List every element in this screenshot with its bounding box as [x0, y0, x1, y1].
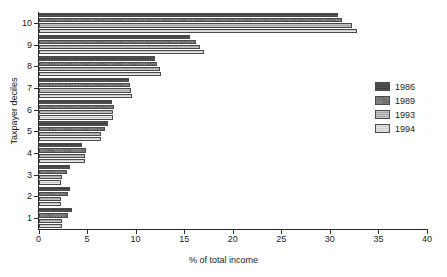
legend-swatch-1994 — [375, 124, 390, 133]
bar-1986-decile-1 — [39, 208, 72, 212]
bar-1993-decile-1 — [39, 219, 62, 223]
legend-item-1994: 1994 — [375, 122, 445, 135]
bar-1994-decile-9 — [39, 50, 204, 54]
x-tick-label: 0 — [36, 234, 41, 244]
bar-1986-decile-8 — [39, 56, 156, 60]
bar-1989-decile-10 — [39, 18, 342, 22]
bar-1994-decile-3 — [39, 180, 61, 184]
bar-1994-decile-5 — [39, 137, 101, 141]
bar-1989-decile-5 — [39, 127, 105, 131]
bar-1986-decile-6 — [39, 100, 113, 104]
bar-1994-decile-4 — [39, 159, 86, 163]
y-tick-label: 9 — [27, 40, 32, 50]
y-tick — [34, 110, 38, 111]
bar-1989-decile-7 — [39, 83, 130, 87]
x-tick-label: 25 — [276, 234, 286, 244]
bar-1989-decile-6 — [39, 105, 115, 109]
bar-1989-decile-1 — [39, 213, 68, 217]
y-tick-label: 10 — [22, 18, 32, 28]
y-tick-label: 5 — [27, 126, 32, 136]
x-tick-label: 15 — [179, 234, 189, 244]
bar-1994-decile-8 — [39, 72, 161, 76]
bar-1994-decile-2 — [39, 202, 61, 206]
y-tick — [34, 66, 38, 67]
bar-1994-decile-7 — [39, 94, 132, 98]
bar-1993-decile-2 — [39, 197, 61, 201]
legend-label-1994: 1994 — [395, 124, 415, 134]
legend-item-1993: 1993 — [375, 108, 445, 121]
bar-1986-decile-7 — [39, 78, 129, 82]
x-tick-label: 10 — [131, 234, 141, 244]
y-tick-label: 6 — [27, 105, 32, 115]
x-tick-label: 30 — [325, 234, 335, 244]
y-axis-title: Taxpayer deciles — [9, 51, 19, 171]
y-tick — [34, 23, 38, 24]
y-tick — [34, 153, 38, 154]
x-tick-label: 20 — [228, 234, 238, 244]
legend-label-1986: 1986 — [395, 82, 415, 92]
bar-1993-decile-3 — [39, 175, 62, 179]
y-tick-label: 4 — [27, 148, 32, 158]
legend-item-1986: 1986 — [375, 80, 445, 93]
y-tick — [34, 175, 38, 176]
bar-1989-decile-8 — [39, 62, 157, 66]
x-tick-label: 40 — [422, 234, 432, 244]
y-tick-label: 8 — [27, 61, 32, 71]
bar-1986-decile-10 — [39, 13, 338, 17]
bar-1994-decile-10 — [39, 29, 358, 33]
x-tick-label: 5 — [85, 234, 90, 244]
bar-1986-decile-3 — [39, 165, 70, 169]
bar-1994-decile-6 — [39, 115, 114, 119]
bar-1993-decile-5 — [39, 132, 101, 136]
y-tick-label: 1 — [27, 213, 32, 223]
bar-1986-decile-2 — [39, 187, 70, 191]
y-tick — [34, 45, 38, 46]
legend-label-1989: 1989 — [395, 96, 415, 106]
bar-1994-decile-1 — [39, 224, 62, 228]
legend: 1986198919931994 — [375, 80, 445, 136]
bar-1989-decile-2 — [39, 192, 68, 196]
bar-1989-decile-9 — [39, 40, 196, 44]
income-distribution-bar-chart: 0510152025303540 12345678910 % of total … — [0, 0, 447, 277]
legend-swatch-1993 — [375, 110, 390, 119]
y-tick — [34, 88, 38, 89]
bar-1993-decile-8 — [39, 67, 160, 71]
legend-swatch-1986 — [375, 82, 390, 91]
legend-item-1989: 1989 — [375, 94, 445, 107]
x-axis-title: % of total income — [0, 255, 447, 265]
y-axis-line — [38, 12, 39, 230]
y-tick — [34, 218, 38, 219]
bar-1986-decile-5 — [39, 121, 109, 125]
bar-1986-decile-9 — [39, 35, 191, 39]
bar-1993-decile-10 — [39, 23, 353, 27]
bar-1989-decile-3 — [39, 170, 67, 174]
bar-1989-decile-4 — [39, 148, 87, 152]
y-tick — [34, 131, 38, 132]
x-tick-label: 35 — [373, 234, 383, 244]
bar-1986-decile-4 — [39, 143, 83, 147]
bar-1993-decile-9 — [39, 45, 200, 49]
bar-1993-decile-4 — [39, 154, 86, 158]
legend-swatch-1989 — [375, 96, 390, 105]
bar-1993-decile-6 — [39, 110, 114, 114]
plot-area — [39, 12, 428, 229]
y-tick-label: 2 — [27, 191, 32, 201]
bar-1993-decile-7 — [39, 88, 131, 92]
y-tick-label: 3 — [27, 170, 32, 180]
y-tick-label: 7 — [27, 83, 32, 93]
y-tick — [34, 196, 38, 197]
legend-label-1993: 1993 — [395, 110, 415, 120]
